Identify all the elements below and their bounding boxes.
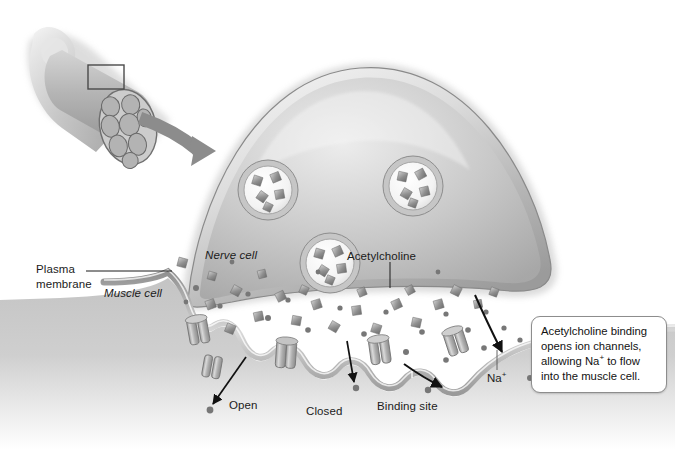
- callout-line-3-post: to flow: [604, 355, 640, 367]
- label-closed: Closed: [306, 404, 342, 419]
- callout-line-2: opens ion channels,: [541, 339, 657, 354]
- callout-box: Acetylcholine binding opens ion channels…: [531, 316, 667, 393]
- label-acetylcholine: Acetylcholine: [347, 249, 416, 264]
- channel-open-right: [367, 333, 393, 365]
- label-nerve-cell: Nerve cell: [205, 248, 257, 263]
- figure-canvas: Plasma membrane Muscle cell Nerve cell A…: [0, 0, 675, 449]
- label-open: Open: [229, 398, 258, 413]
- nerve-cell-terminal: [182, 64, 557, 310]
- label-muscle-cell: Muscle cell: [104, 286, 162, 301]
- vesicle-1: [238, 160, 298, 220]
- muscle-fiber-bundle-inset: [28, 27, 216, 173]
- vesicle-2: [383, 156, 443, 216]
- arrow-sodium-influx-1: [475, 295, 502, 352]
- sodium-charge: +: [502, 370, 507, 379]
- label-binding-site: Binding site: [377, 399, 438, 414]
- callout-line-3-pre: allowing Na: [541, 355, 599, 367]
- callout-line-1: Acetylcholine binding: [541, 324, 657, 339]
- callout-line-4: into the muscle cell.: [541, 369, 657, 384]
- channel-closed-center: [274, 336, 298, 368]
- label-sodium-ion: Na+: [487, 372, 506, 384]
- callout-line-3: allowing Na+ to flow: [541, 354, 657, 369]
- label-plasma-membrane: Plasma membrane: [36, 262, 92, 291]
- magnify-arrow-head: [190, 136, 216, 166]
- sodium-symbol: Na: [487, 372, 502, 384]
